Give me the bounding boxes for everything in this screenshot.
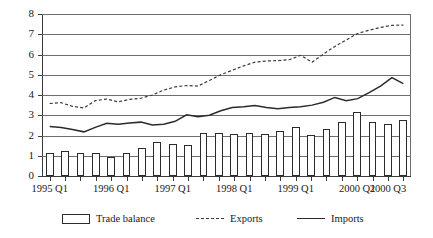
x-axis-tick-label: 1995 Q1 [31,183,67,194]
trade-balance-swatch-icon [62,214,90,224]
plot-area [42,14,411,176]
x-axis-tick-label: 1998 Q1 [216,183,252,194]
line-series-layer [42,14,411,176]
x-axis-tick-mark [111,177,112,181]
y-axis-tick-label: 6 [14,49,34,60]
exports-swatch-icon [196,218,224,219]
legend-item-exports: Exports [196,213,263,224]
x-axis-tick-label: 1999 Q1 [277,183,313,194]
x-axis-tick-mark [80,177,81,181]
y-axis-tick-label: 2 [14,130,34,141]
y-axis-tick-label: 4 [14,89,34,100]
y-axis-tick-label: 8 [14,8,34,19]
exports-line [50,25,404,108]
x-axis-tick-mark [357,177,358,181]
x-axis-labels: 1995 Q11996 Q11997 Q11998 Q11999 Q12000 … [0,183,433,197]
x-axis-tick-mark [342,177,343,181]
x-axis-tick-mark [326,177,327,181]
legend-label-imports: Imports [331,213,364,224]
imports-line [50,78,404,132]
x-axis-tick-mark [203,177,204,181]
legend-item-imports: Imports [297,213,364,224]
x-axis-tick-mark [188,177,189,181]
legend-label-trade-balance: Trade balance [96,213,155,224]
x-axis-tick-mark [157,177,158,181]
x-axis-tick-mark [234,177,235,181]
x-axis-tick-mark [373,177,374,181]
x-axis-tick-mark [265,177,266,181]
legend-item-trade-balance: Trade balance [62,213,155,224]
imports-swatch-icon [297,218,325,219]
x-axis-tick-mark [296,177,297,181]
x-axis-tick-mark [219,177,220,181]
x-axis-tick-label: 1996 Q1 [93,183,129,194]
y-axis-tick-label: 0 [14,170,34,181]
legend-label-exports: Exports [230,213,263,224]
x-axis-tick-mark [142,177,143,181]
x-axis-tick-mark [311,177,312,181]
x-axis-tick-label: 2000 Q3 [370,183,406,194]
y-axis-tick-label: 7 [14,28,34,39]
x-axis-tick-mark [173,177,174,181]
x-axis-tick-mark [96,177,97,181]
x-axis-tick-mark [127,177,128,181]
y-axis-tick-label: 3 [14,109,34,120]
x-axis-tick-mark [388,177,389,181]
y-axis-tick-label: 1 [14,150,34,161]
x-axis-tick-mark [65,177,66,181]
x-axis-tick-mark [403,177,404,181]
y-axis-tick-label: 5 [14,69,34,80]
x-axis-tick-mark [280,177,281,181]
chart-legend: Trade balance Exports Imports [0,209,433,231]
x-axis-tick-label: 1997 Q1 [154,183,190,194]
trade-balance-chart: 012345678 1995 Q11996 Q11997 Q11998 Q119… [0,0,433,238]
x-axis-tick-mark [50,177,51,181]
x-axis-tick-mark [250,177,251,181]
